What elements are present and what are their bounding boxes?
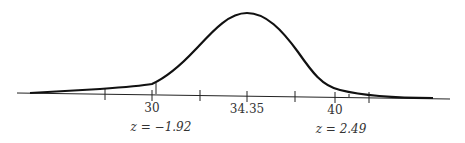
z-score-label-right: z = 2.49 xyxy=(316,122,367,136)
normal-curve-figure: 30 34.35 40 z = −1.92 z = 2.49 xyxy=(0,0,465,143)
normal-curve-svg xyxy=(0,0,465,143)
density-curve xyxy=(30,13,433,98)
tick-label-40: 40 xyxy=(327,103,342,117)
tick-label-mean: 34.35 xyxy=(230,102,264,116)
tick-label-30: 30 xyxy=(144,101,159,115)
z-score-label-left: z = −1.92 xyxy=(131,120,192,134)
